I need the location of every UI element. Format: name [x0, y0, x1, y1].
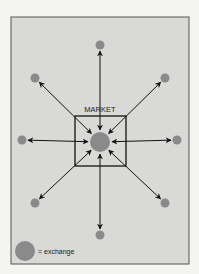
node-upper-right	[161, 74, 170, 83]
node-bottom	[96, 231, 105, 240]
legend-label: = exchange	[38, 248, 74, 256]
legend-exchange-dot	[15, 241, 35, 261]
market-exchange-diagram: MARKET = exchange	[0, 0, 199, 274]
node-right	[173, 136, 182, 145]
market-center-dot	[90, 132, 110, 152]
market-label: MARKET	[84, 105, 116, 114]
node-lower-left	[31, 199, 40, 208]
node-lower-right	[161, 199, 170, 208]
node-left	[18, 136, 27, 145]
node-top	[96, 41, 105, 50]
node-upper-left	[31, 74, 40, 83]
